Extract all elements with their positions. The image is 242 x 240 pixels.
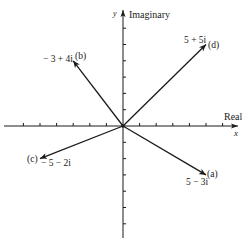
vector-d-expression: 5 + 5i: [184, 35, 206, 45]
real-axis-label: Real: [224, 112, 242, 122]
x-axis-variable-label: x: [234, 128, 238, 138]
vector-a-expression: 5 − 3i: [186, 177, 208, 187]
vector-d-tag: (d): [208, 40, 219, 50]
vector-c-expression: − 5 − 2i: [41, 158, 71, 168]
vector-a-tag: (a): [207, 169, 218, 179]
vector-b-expression: − 3 + 4i: [43, 54, 73, 64]
vector-c-tag: (c): [27, 154, 38, 164]
vector-a-arrow: [123, 126, 206, 175]
vector-b-arrow: [73, 61, 123, 126]
vector-c-arrow: [40, 126, 123, 159]
vector-d-arrow: [123, 45, 206, 127]
y-axis-variable-label: y: [113, 9, 117, 19]
complex-plane-diagram: y Imaginary Real x 5 + 5i (d) − 3 + 4i (…: [0, 0, 242, 240]
imaginary-axis-label: Imaginary: [129, 10, 170, 20]
vector-b-tag: (b): [75, 51, 86, 61]
origin-point: [121, 124, 125, 128]
